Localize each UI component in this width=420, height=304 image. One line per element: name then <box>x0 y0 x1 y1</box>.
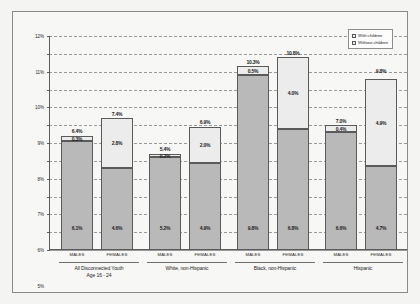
x-axis-sex-label: MALES <box>149 252 181 257</box>
x-axis-group-label: Black, non-Hispanic <box>235 265 315 272</box>
legend-item-without-children: Without children <box>352 39 388 46</box>
bar-segment-with-children[interactable]: 0.4% <box>325 125 357 132</box>
y-tick-label: 11% <box>35 69 44 74</box>
bar-group: 5.2%0.2%5.4%4.9%2.0%6.9% <box>147 36 227 250</box>
bar-segment-label-with-children: 4.9% <box>366 120 396 126</box>
bar-total-label: 6.9% <box>185 119 225 125</box>
bar-total-label: 10.8% <box>273 50 313 56</box>
x-axis-sex-label: MALES <box>325 252 357 257</box>
legend-label-with-children: With children <box>358 33 382 38</box>
bar-segment-without-children[interactable]: 6.1% <box>61 141 93 250</box>
bar-segment-label-with-children: 0.2% <box>150 153 180 159</box>
bar-segment-label-with-children: 4.0% <box>278 90 308 96</box>
y-tick-label: 8% <box>38 176 44 181</box>
bar-total-label: 5.4% <box>145 146 185 152</box>
bar-total-label: 6.4% <box>57 128 97 134</box>
y-tick-label: 10% <box>35 105 44 110</box>
bar-segment-label-without-children: 4.9% <box>190 225 220 231</box>
bar-segment-with-children[interactable]: 0.3% <box>61 136 93 141</box>
bar-segment-without-children[interactable]: 6.6% <box>325 132 357 250</box>
stacked-bar[interactable]: 4.6%2.8%7.4% <box>101 118 133 250</box>
x-axis-sex-label: FEMALES <box>365 252 397 257</box>
x-axis-group: MALESFEMALESWhite, non-Hispanic <box>147 250 227 260</box>
x-axis-group: MALESFEMALESBlack, non-Hispanic <box>235 250 315 260</box>
x-axis-sex-label: FEMALES <box>189 252 221 257</box>
bar-segment-without-children[interactable]: 4.7% <box>365 166 397 250</box>
bar-segment-label-with-children: 0.3% <box>62 136 92 142</box>
x-axis-group: MALESFEMALESHispanic <box>323 250 403 260</box>
bar-group: 6.6%0.4%7.0%4.7%4.9%9.8% <box>323 36 403 250</box>
y-tick-label: 7% <box>38 212 44 217</box>
bar-segment-label-with-children: 0.4% <box>326 126 356 132</box>
bar-segment-with-children[interactable]: 0.2% <box>149 154 181 158</box>
bar-group: 6.1%0.3%6.4%4.6%2.8%7.4% <box>59 36 139 250</box>
bar-group: 9.8%0.5%10.3%6.8%4.0%10.8% <box>235 36 315 250</box>
stacked-bar[interactable]: 6.8%4.0%10.8% <box>277 57 309 250</box>
bar-groups: 6.1%0.3%6.4%4.6%2.8%7.4%5.2%0.2%5.4%4.9%… <box>49 36 407 250</box>
x-axis-group-rule <box>59 262 139 263</box>
y-tick-label: 6% <box>38 248 44 253</box>
bar-segment-label-without-children: 6.8% <box>278 225 308 231</box>
bar-segment-label-with-children: 2.0% <box>190 142 220 148</box>
y-tick-label: 5% <box>38 283 44 288</box>
plot-area: 0%1%2%3%4%5%6%7%8%9%10%11%12% 6.1%0.3%6.… <box>49 36 407 250</box>
x-axis-group: MALESFEMALESAll Disconnected Youth Age 1… <box>59 250 139 260</box>
legend-swatch-with-children-icon <box>352 34 356 38</box>
bar-segment-label-without-children: 6.6% <box>326 225 356 231</box>
x-axis-sex-label: FEMALES <box>101 252 133 257</box>
bar-total-label: 7.4% <box>97 111 137 117</box>
x-axis-group-rule <box>147 262 227 263</box>
x-axis-group-label: Hispanic <box>323 265 403 272</box>
x-axis-group-label: White, non-Hispanic <box>147 265 227 272</box>
y-tick-label: 9% <box>38 141 44 146</box>
bar-segment-with-children[interactable]: 0.5% <box>237 66 269 75</box>
bar-segment-label-without-children: 6.1% <box>62 225 92 231</box>
x-axis-group-rule <box>235 262 315 263</box>
bar-segment-without-children[interactable]: 4.9% <box>189 163 221 250</box>
bar-segment-with-children[interactable]: 4.0% <box>277 57 309 128</box>
x-axis-labels: MALESFEMALESAll Disconnected Youth Age 1… <box>49 250 407 302</box>
bar-segment-with-children[interactable]: 2.0% <box>189 127 221 163</box>
stacked-bar[interactable]: 6.1%0.3%6.4% <box>61 136 93 250</box>
bar-segment-without-children[interactable]: 6.8% <box>277 129 309 250</box>
x-axis-sex-label: MALES <box>237 252 269 257</box>
bar-segment-label-without-children: 4.6% <box>102 225 132 231</box>
bar-total-label: 9.8% <box>361 68 401 74</box>
y-tick-label: 12% <box>35 34 44 39</box>
stacked-bar[interactable]: 4.7%4.9%9.8% <box>365 75 397 250</box>
bar-segment-label-without-children: 5.2% <box>150 225 180 231</box>
stacked-bar[interactable]: 9.8%0.5%10.3% <box>237 66 269 250</box>
legend-label-without-children: Without children <box>358 40 388 45</box>
bar-segment-without-children[interactable]: 5.2% <box>149 157 181 250</box>
bar-segment-without-children[interactable]: 9.8% <box>237 75 269 250</box>
bar-segment-without-children[interactable]: 4.6% <box>101 168 133 250</box>
stacked-bar[interactable]: 4.9%2.0%6.9% <box>189 127 221 250</box>
stacked-bar[interactable]: 5.2%0.2%5.4% <box>149 154 181 250</box>
bar-segment-label-with-children: 0.5% <box>238 68 268 74</box>
legend-item-with-children: With children <box>352 32 388 39</box>
legend-swatch-without-children-icon <box>352 41 356 45</box>
bar-total-label: 7.0% <box>321 118 361 124</box>
bar-segment-with-children[interactable]: 4.9% <box>365 79 397 166</box>
bar-segment-with-children[interactable]: 2.8% <box>101 118 133 168</box>
bar-total-label: 10.3% <box>233 59 273 65</box>
bar-segment-label-without-children: 4.7% <box>366 225 396 231</box>
stacked-bar[interactable]: 6.6%0.4%7.0% <box>325 125 357 250</box>
x-axis-sex-label: MALES <box>61 252 93 257</box>
bar-segment-label-with-children: 2.8% <box>102 140 132 146</box>
x-axis-group-label: All Disconnected Youth Age 16 - 24 <box>59 265 139 279</box>
x-axis-group-rule <box>323 262 403 263</box>
legend: With children Without children <box>348 29 393 49</box>
x-axis-sex-label: FEMALES <box>277 252 309 257</box>
bar-segment-label-without-children: 9.8% <box>238 225 268 231</box>
chart-figure-frame: 0%1%2%3%4%5%6%7%8%9%10%11%12% 6.1%0.3%6.… <box>12 11 408 293</box>
chart-screenshot: 0%1%2%3%4%5%6%7%8%9%10%11%12% 6.1%0.3%6.… <box>0 0 420 304</box>
